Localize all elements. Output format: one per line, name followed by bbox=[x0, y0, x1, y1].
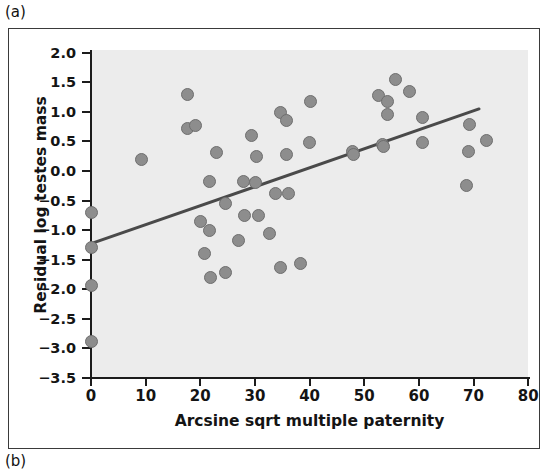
figure-panel-a: (a) 2.01.51.00.50.0−0.5−1.0−1.5−2.0−2.5−… bbox=[0, 0, 549, 476]
regression-line bbox=[0, 0, 549, 476]
panel-letter-b: (b) bbox=[5, 452, 26, 470]
